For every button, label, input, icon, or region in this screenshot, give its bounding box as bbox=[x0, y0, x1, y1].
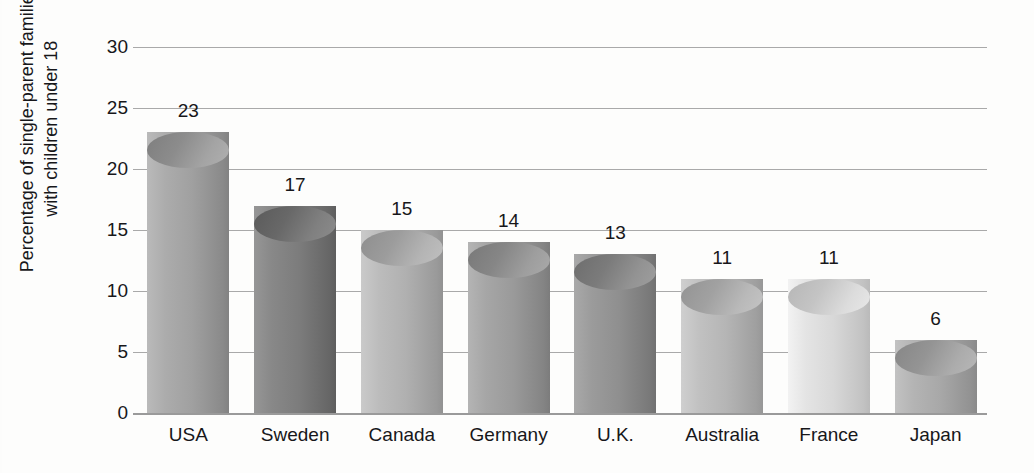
y-axis-tick-5: 5 bbox=[86, 341, 128, 363]
bar-usa: 23 bbox=[147, 47, 229, 413]
y-axis-tick-10: 10 bbox=[86, 280, 128, 302]
y-axis-tick-15: 15 bbox=[86, 219, 128, 241]
bar-top-ellipse bbox=[468, 242, 550, 278]
y-axis-title: Percentage of single-parent families wit… bbox=[16, 0, 64, 309]
bar-france: 11 bbox=[788, 47, 870, 413]
bar-value-label: 14 bbox=[498, 210, 519, 232]
bar-shape: 6 bbox=[895, 340, 977, 413]
bar-chart: Percentage of single-parent families wit… bbox=[0, 0, 1034, 473]
bar-top-ellipse bbox=[361, 230, 443, 266]
gridline-0 bbox=[133, 413, 987, 415]
bar-value-label: 13 bbox=[605, 222, 626, 244]
bar-top-ellipse bbox=[788, 279, 870, 315]
x-axis-label-germany: Germany bbox=[468, 424, 550, 446]
bar-body bbox=[147, 132, 229, 413]
plot-area: 231715141311116 bbox=[133, 47, 987, 413]
bar-shape: 17 bbox=[254, 206, 336, 413]
y-axis-tick-30: 30 bbox=[86, 36, 128, 58]
bar-value-label: 11 bbox=[819, 247, 839, 269]
bar-shape: 14 bbox=[468, 242, 550, 413]
x-axis-label-canada: Canada bbox=[361, 424, 443, 446]
x-axis-label-japan: Japan bbox=[895, 424, 977, 446]
bar-value-label: 17 bbox=[285, 174, 306, 196]
bar-u-k: 13 bbox=[574, 47, 656, 413]
bar-sweden: 17 bbox=[254, 47, 336, 413]
bar-australia: 11 bbox=[681, 47, 763, 413]
x-axis-label-u-k: U.K. bbox=[574, 424, 656, 446]
y-axis-tick-0: 0 bbox=[86, 402, 128, 424]
x-axis-label-usa: USA bbox=[147, 424, 229, 446]
bar-value-label: 6 bbox=[930, 308, 941, 330]
y-axis-tick-labels: 302520151050 bbox=[86, 47, 128, 413]
bar-canada: 15 bbox=[361, 47, 443, 413]
bar-shape: 23 bbox=[147, 132, 229, 413]
bar-shape: 11 bbox=[681, 279, 763, 413]
y-axis-title-line-1: Percentage of single-parent families bbox=[16, 0, 40, 309]
bar-value-label: 15 bbox=[391, 198, 412, 220]
bar-top-ellipse bbox=[254, 206, 336, 242]
bar-top-ellipse bbox=[895, 340, 977, 376]
x-axis-label-sweden: Sweden bbox=[254, 424, 336, 446]
bar-value-label: 11 bbox=[712, 247, 732, 269]
x-axis-label-australia: Australia bbox=[681, 424, 763, 446]
y-axis-tick-25: 25 bbox=[86, 97, 128, 119]
x-axis-label-france: France bbox=[788, 424, 870, 446]
bar-shape: 15 bbox=[361, 230, 443, 413]
bar-germany: 14 bbox=[468, 47, 550, 413]
bar-top-ellipse bbox=[681, 279, 763, 315]
y-axis-title-line-2: with children under 18 bbox=[40, 0, 64, 309]
bar-shape: 11 bbox=[788, 279, 870, 413]
y-axis-tick-20: 20 bbox=[86, 158, 128, 180]
bar-value-label: 23 bbox=[178, 100, 199, 122]
bar-shape: 13 bbox=[574, 254, 656, 413]
bar-japan: 6 bbox=[895, 47, 977, 413]
